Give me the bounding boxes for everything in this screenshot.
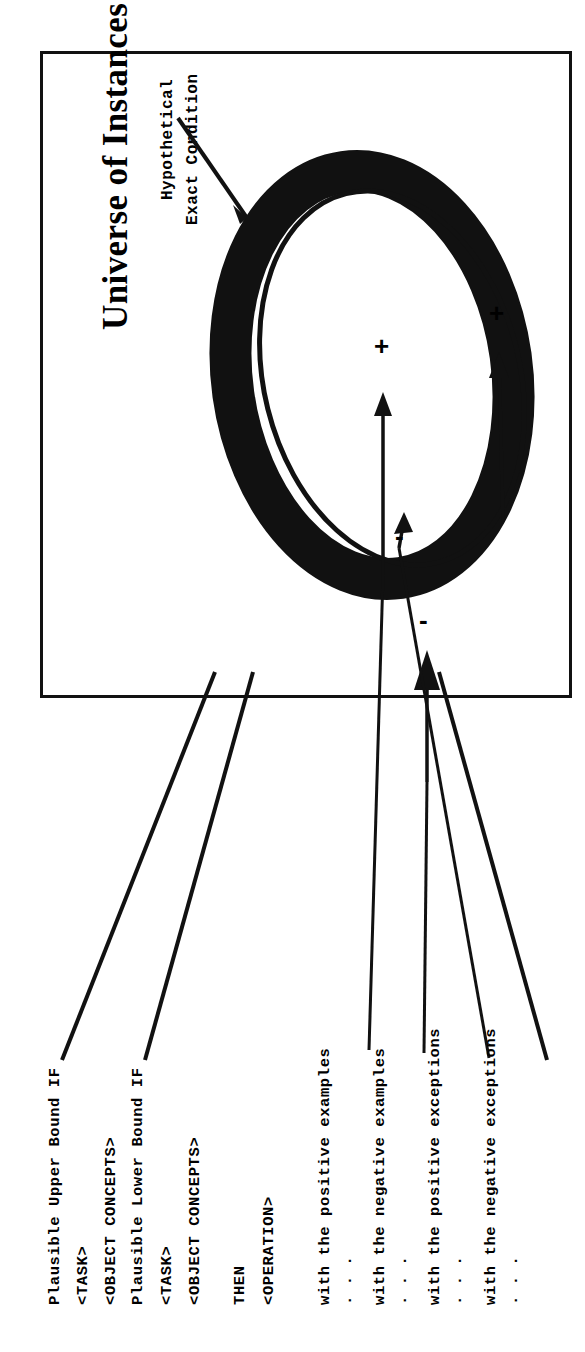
legend-dots-negative-examples: . . . [395, 1255, 411, 1305]
legend-item-negative-exceptions: with the negative exceptions [484, 1028, 500, 1305]
upper-bound-leader-line [62, 672, 215, 1060]
rule-lower-object-concepts: <OBJECT CONCEPTS> [188, 1137, 204, 1305]
legend-item-negative-examples: with the negative examples [373, 1048, 389, 1305]
positive-example-sign: + [374, 333, 389, 359]
rule-then: THEN [233, 1265, 249, 1305]
rule-upper-object-concepts: <OBJECT CONCEPTS> [104, 1137, 120, 1305]
rule-operation: <OPERATION> [262, 1196, 278, 1305]
figure-page: Universe of Instances Hypothetical Exact… [0, 0, 585, 1352]
legend-dots-positive-exceptions: . . . [450, 1255, 466, 1305]
lower-bound-leader-line [145, 672, 253, 1060]
rule-lower-task: <TASK> [160, 1246, 176, 1305]
legend-item-positive-exceptions: with the positive exceptions [428, 1028, 444, 1305]
page-title: Universe of Instances [98, 3, 133, 330]
rule-lower-bound-if: Plausible Lower Bound IF [131, 1067, 147, 1305]
rule-upper-bound-if: Plausible Upper Bound IF [48, 1067, 64, 1305]
callout-label-line1: Hypothetical [160, 79, 176, 200]
negative-example-sign: - [419, 607, 428, 633]
negative-example-leader-line [424, 782, 427, 1053]
negative-exception-leader-line [439, 672, 547, 1060]
callout-label-line2: Exact Condition [185, 73, 201, 225]
positive-exception-sign: + [489, 300, 504, 326]
legend-dots-positive-examples: . . . [340, 1255, 356, 1305]
rule-upper-task: <TASK> [76, 1246, 92, 1305]
negative-exception-sign: - [395, 523, 404, 549]
legend-dots-negative-exceptions: . . . [506, 1255, 522, 1305]
legend-item-positive-examples: with the positive examples [318, 1048, 334, 1305]
